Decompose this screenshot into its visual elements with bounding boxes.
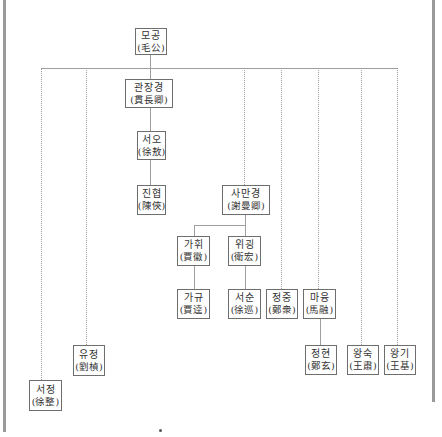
node-korean-name: 왕기: [390, 348, 410, 360]
connector-to-wangsuk: [361, 68, 362, 345]
node-korean-name: 정중: [272, 292, 292, 304]
connector-samangyeong-horizontal: [194, 225, 246, 226]
node-gwanjanggyeong: 관장경 (貫長卿): [125, 79, 173, 108]
node-korean-name: 진협: [142, 188, 162, 200]
node-hanja-name: (毛公): [137, 42, 164, 54]
node-seoo: 서오 (徐敖): [137, 131, 166, 160]
node-gagyu: 가규 (賈逵): [177, 289, 210, 319]
node-korean-name: 서정: [36, 384, 56, 396]
node-hanja-name: (賈逵): [180, 304, 207, 316]
node-korean-name: 정현: [311, 348, 331, 360]
node-korean-name: 가휘: [184, 239, 204, 251]
connector-to-yujeong: [86, 68, 87, 345]
connector-wigoeng-seosun: [245, 266, 246, 289]
node-wangsuk: 왕숙 (王肅): [347, 345, 379, 375]
connector-gahwi-gagyu: [194, 266, 195, 289]
connector-mogong-down: [150, 54, 151, 68]
node-jeongjung: 정중 (鄭衆): [266, 289, 298, 319]
node-hanja-name: (謝曼卿): [227, 200, 264, 212]
node-hanja-name: (劉楨): [75, 361, 102, 373]
connector-seoo-jinhyeop: [150, 160, 151, 185]
connector-mayung-jeonghyeon: [320, 319, 321, 345]
node-korean-name: 왕숙: [353, 348, 373, 360]
node-gahwi: 가휘 (賈徽): [177, 236, 210, 266]
node-hanja-name: (徐巡): [231, 304, 258, 316]
connector-to-wanggi: [397, 68, 398, 345]
node-hanja-name: (鄭衆): [268, 304, 295, 316]
node-korean-name: 모공: [141, 30, 161, 42]
node-mayung: 마융 (馬融): [303, 289, 336, 319]
node-hanja-name: (徐整): [32, 396, 59, 408]
node-jinhyeop: 진협 (陳俠): [137, 185, 166, 215]
node-wigoeng: 위굉 (衛宏): [228, 236, 261, 266]
connector-main-horizontal: [41, 68, 398, 69]
stray-dot-mark: [159, 429, 162, 432]
left-page-border: [3, 0, 6, 432]
node-korean-name: 관장경: [134, 82, 164, 94]
node-samangyeong: 사만경 (謝曼卿): [222, 185, 270, 215]
connector-samangyeong-down: [245, 215, 246, 225]
node-hanja-name: (馬融): [306, 304, 333, 316]
node-wanggi: 왕기 (王基): [384, 345, 416, 375]
node-seojeong: 서정 (徐整): [29, 380, 62, 411]
node-jeonghyeon: 정현 (鄭玄): [305, 345, 337, 375]
node-yujeong: 유정 (劉楨): [73, 345, 105, 376]
node-korean-name: 가규: [184, 292, 204, 304]
connector-to-mayung: [318, 68, 319, 289]
right-page-border: [432, 0, 435, 402]
node-hanja-name: (賈徽): [180, 251, 207, 263]
node-korean-name: 서순: [235, 292, 255, 304]
node-korean-name: 사만경: [231, 188, 261, 200]
connector-to-seojeong: [41, 68, 42, 380]
node-hanja-name: (王基): [386, 360, 413, 372]
connector-to-jeongjung: [281, 68, 282, 289]
node-hanja-name: (陳俠): [138, 200, 165, 212]
node-korean-name: 마융: [310, 292, 330, 304]
node-hanja-name: (衛宏): [231, 251, 258, 263]
node-hanja-name: (徐敖): [138, 146, 165, 158]
connector-to-samangyeong: [244, 68, 245, 185]
node-hanja-name: (王肅): [349, 360, 376, 372]
node-korean-name: 유정: [79, 349, 99, 361]
connector-to-wigoeng: [245, 225, 246, 236]
connector-to-gwanjanggyeong: [150, 68, 151, 79]
node-seosun: 서순 (徐巡): [228, 289, 261, 319]
connector-gwanjanggyeong-seoo: [150, 108, 151, 131]
connector-to-gahwi: [194, 225, 195, 236]
node-korean-name: 서오: [142, 134, 162, 146]
node-hanja-name: (貫長卿): [130, 94, 167, 106]
node-korean-name: 위굉: [235, 239, 255, 251]
node-mogong: 모공 (毛公): [135, 28, 167, 55]
node-hanja-name: (鄭玄): [307, 360, 334, 372]
